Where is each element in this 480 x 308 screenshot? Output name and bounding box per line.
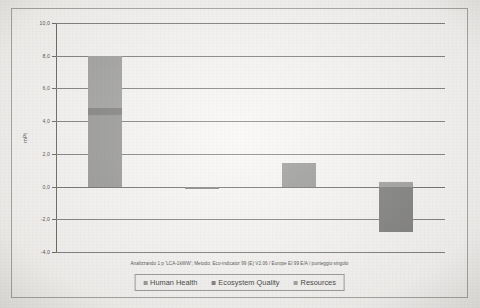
- bar-segment[interactable]: [88, 56, 122, 108]
- bar-3[interactable]: [379, 23, 413, 252]
- bar-slot: [153, 23, 250, 252]
- bar-slot: [251, 23, 348, 252]
- y-tick-label: 10,0: [40, 20, 51, 26]
- y-tick-label: -4,0: [41, 249, 50, 255]
- legend-item[interactable]: Ecosystem Quality: [211, 278, 279, 287]
- legend-swatch-icon: [211, 281, 215, 285]
- bar-1[interactable]: [185, 23, 219, 252]
- legend-swatch-icon: [294, 281, 298, 285]
- bar-segment[interactable]: [379, 182, 413, 187]
- y-axis-title: mPt: [22, 133, 28, 143]
- bar-segment[interactable]: [282, 163, 316, 187]
- legend-label: Human Health: [150, 278, 197, 287]
- bar-segment[interactable]: [88, 115, 122, 187]
- gridline--4,0: [56, 252, 445, 253]
- legend-label: Ecosystem Quality: [218, 278, 279, 287]
- plot-area: mPt 10,08,06,04,02,00,0-2,0-4,0: [56, 23, 445, 252]
- legend-swatch-icon: [143, 281, 147, 285]
- bar-0[interactable]: [88, 23, 122, 252]
- y-tick--4,0: [52, 252, 56, 253]
- chart-legend: Human HealthEcosystem QualityResources: [134, 274, 345, 291]
- y-tick-label: 4,0: [42, 118, 50, 124]
- chart-subtitle: Analizzando 1 p 'LCA-1kWW'; Metodo: Eco-…: [12, 261, 467, 266]
- y-tick-label: 6,0: [42, 85, 50, 91]
- bar-slot: [348, 23, 445, 252]
- bar-segment[interactable]: [88, 108, 122, 115]
- y-tick-label: 2,0: [42, 151, 50, 157]
- scanned-page-background: mPt 10,08,06,04,02,00,0-2,0-4,0 Analizza…: [0, 0, 480, 308]
- y-tick-label: 8,0: [42, 53, 50, 59]
- bar-2[interactable]: [282, 23, 316, 252]
- y-tick-label: 0,0: [42, 184, 50, 190]
- bar-segment[interactable]: [379, 187, 413, 232]
- chart-container: mPt 10,08,06,04,02,00,0-2,0-4,0 Analizza…: [11, 8, 468, 298]
- bar-segment[interactable]: [185, 187, 219, 189]
- legend-item[interactable]: Resources: [294, 278, 336, 287]
- y-tick-label: -2,0: [41, 216, 50, 222]
- bar-slot: [56, 23, 153, 252]
- legend-item[interactable]: Human Health: [143, 278, 197, 287]
- legend-label: Resources: [301, 278, 336, 287]
